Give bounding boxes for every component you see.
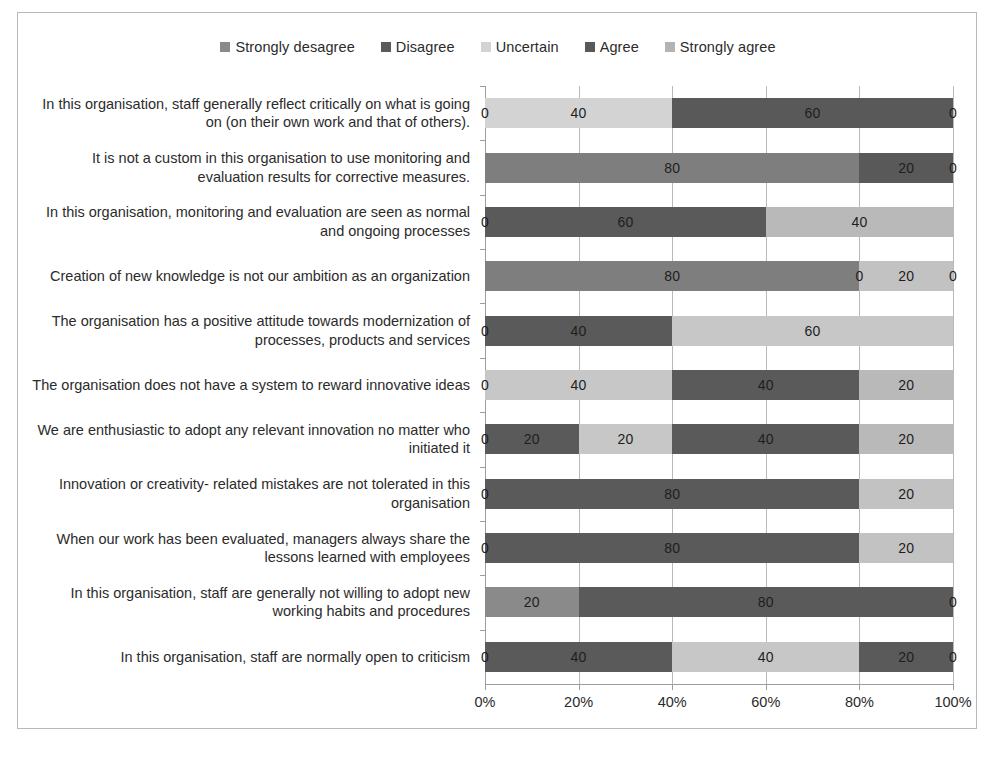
bar-segment-value: 20	[898, 541, 914, 555]
legend-swatch-icon	[220, 42, 230, 52]
legend-item[interactable]: Disagree	[381, 39, 455, 55]
bar-row[interactable]: 80200	[485, 467, 953, 521]
x-axis-tick	[953, 684, 954, 690]
stacked-bar[interactable]: 8020	[485, 153, 953, 183]
y-axis-tick	[480, 521, 485, 522]
category-label-text: In this organisation, staff are generall…	[28, 584, 470, 621]
bar-segment[interactable]: 60	[672, 316, 953, 346]
y-axis-tick	[480, 575, 485, 576]
bar-row[interactable]: 20800	[485, 575, 953, 629]
legend-item[interactable]: Strongly agree	[665, 39, 776, 55]
bar-segment[interactable]: 60	[485, 207, 766, 237]
legend-swatch-icon	[665, 42, 675, 52]
bar-segment-value: 20	[898, 161, 914, 175]
bar-segment[interactable]: 40	[485, 642, 672, 672]
y-axis-tick	[480, 86, 485, 87]
bar-segment-value: 80	[758, 595, 774, 609]
bar-row[interactable]: 80200	[485, 521, 953, 575]
legend-item[interactable]: Agree	[585, 39, 639, 55]
bar-segment[interactable]: 20	[859, 642, 953, 672]
bar-segment[interactable]: 60	[672, 98, 953, 128]
bar-segment[interactable]: 40	[672, 370, 859, 400]
y-axis-tick	[480, 249, 485, 250]
stacked-bar[interactable]: 4060	[485, 98, 953, 128]
bar-segment[interactable]: 20	[859, 479, 953, 509]
category-label: When our work has been evaluated, manage…	[28, 521, 478, 575]
y-axis-tick	[480, 630, 485, 631]
stacked-bar[interactable]: 4060	[485, 316, 953, 346]
category-label-text: It is not a custom in this organisation …	[28, 149, 470, 186]
stacked-bar[interactable]: 6040	[485, 207, 953, 237]
bar-row[interactable]: 40600	[485, 303, 953, 357]
x-axis-tick	[859, 684, 860, 690]
bar-segment-value: 40	[851, 215, 867, 229]
category-label: In this organisation, monitoring and eva…	[28, 195, 478, 249]
bar-row[interactable]: 80200	[485, 140, 953, 194]
bar-segment-value: 20	[898, 269, 914, 283]
stacked-bar[interactable]: 8020	[485, 261, 953, 291]
y-axis-tick	[480, 412, 485, 413]
bar-segment-value: 20	[898, 432, 914, 446]
category-label-text: In this organisation, staff generally re…	[28, 95, 470, 132]
category-label-text: We are enthusiastic to adopt any relevan…	[28, 421, 470, 458]
chart-container: Strongly desagreeDisagreeUncertainAgreeS…	[17, 12, 977, 729]
bar-segment-value: 80	[664, 487, 680, 501]
bar-segment-value: 40	[758, 432, 774, 446]
bar-segment[interactable]: 80	[485, 261, 859, 291]
category-axis-labels: In this organisation, staff generally re…	[28, 86, 478, 684]
stacked-bar[interactable]: 2080	[485, 587, 953, 617]
stacked-bar[interactable]: 404020	[485, 642, 953, 672]
legend-swatch-icon	[381, 42, 391, 52]
bar-row[interactable]: 802000	[485, 249, 953, 303]
bar-segment[interactable]: 20	[859, 261, 953, 291]
category-label: The organisation does not have a system …	[28, 358, 478, 412]
stacked-bar[interactable]: 20204020	[485, 424, 953, 454]
bar-segment[interactable]: 40	[485, 98, 672, 128]
bar-row[interactable]: 406000	[485, 86, 953, 140]
legend-swatch-icon	[585, 42, 595, 52]
x-axis-tick	[485, 684, 486, 690]
bar-segment[interactable]: 80	[485, 533, 859, 563]
bar-row[interactable]: 4040200	[485, 358, 953, 412]
bar-segment-value: 40	[571, 106, 587, 120]
bar-segment[interactable]: 20	[485, 424, 579, 454]
bar-segment-value: 60	[805, 324, 821, 338]
x-axis-tick-label: 0%	[475, 694, 496, 710]
category-label: The organisation has a positive attitude…	[28, 303, 478, 357]
bar-row[interactable]: 40402000	[485, 630, 953, 684]
y-axis-tick	[480, 467, 485, 468]
bar-row[interactable]: 60400	[485, 195, 953, 249]
bar-segment[interactable]: 80	[485, 479, 859, 509]
bar-segment[interactable]: 40	[485, 316, 672, 346]
bar-segment[interactable]: 20	[485, 587, 579, 617]
legend-label: Disagree	[396, 39, 455, 55]
bar-segment[interactable]: 80	[485, 153, 859, 183]
x-axis-tick-label: 20%	[564, 694, 593, 710]
legend-item[interactable]: Strongly desagree	[220, 39, 354, 55]
chart-legend: Strongly desagreeDisagreeUncertainAgreeS…	[18, 39, 978, 55]
bar-segment[interactable]: 20	[579, 424, 673, 454]
bar-segment[interactable]: 20	[859, 153, 953, 183]
legend-label: Strongly desagree	[235, 39, 354, 55]
x-axis-tick-label: 60%	[751, 694, 780, 710]
category-label: In this organisation, staff are generall…	[28, 575, 478, 629]
bar-segment[interactable]: 20	[859, 424, 953, 454]
bar-segment[interactable]: 40	[485, 370, 672, 400]
legend-item[interactable]: Uncertain	[481, 39, 559, 55]
x-axis-tick-label: 80%	[845, 694, 874, 710]
bar-segment-value: 60	[805, 106, 821, 120]
bar-segment[interactable]: 20	[859, 370, 953, 400]
bar-segment[interactable]: 80	[579, 587, 953, 617]
bar-segment-value: 40	[571, 324, 587, 338]
bar-segment-value: 40	[758, 650, 774, 664]
bar-segment[interactable]: 20	[859, 533, 953, 563]
legend-label: Strongly agree	[680, 39, 776, 55]
stacked-bar[interactable]: 404020	[485, 370, 953, 400]
bar-row[interactable]: 202040200	[485, 412, 953, 466]
bar-segment[interactable]: 40	[672, 424, 859, 454]
bar-segment[interactable]: 40	[766, 207, 953, 237]
category-label-text: Innovation or creativity- related mistak…	[28, 475, 470, 512]
stacked-bar[interactable]: 8020	[485, 479, 953, 509]
bar-segment[interactable]: 40	[672, 642, 859, 672]
stacked-bar[interactable]: 8020	[485, 533, 953, 563]
